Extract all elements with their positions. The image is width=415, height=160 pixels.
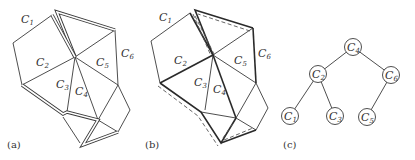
panel-b: C1 C2 C3 C4 C5 C6 (b): [145, 10, 271, 150]
panel-c: C4 C2 C6 C1 C3 C5 (c): [282, 39, 400, 151]
cell-label-c6: C6: [258, 47, 271, 61]
panel-label-c: (c): [283, 139, 297, 150]
path-solid: [221, 130, 256, 143]
edge: [213, 28, 253, 55]
outer-boundary-right: [253, 28, 256, 83]
edge: [63, 117, 80, 143]
cell-label-c5: C5: [234, 54, 247, 68]
edge: [98, 85, 118, 120]
cell-label-c6: C6: [121, 47, 134, 61]
tree-node-c4: C4: [345, 39, 362, 56]
cell-label-c1: C1: [21, 13, 34, 27]
panel-label-a: (a): [7, 139, 21, 150]
panel-a: C1 C2 C3 C4 C5 C6 (a): [7, 12, 134, 150]
path-solid: [195, 10, 253, 55]
tree-node-c3: C3: [327, 108, 344, 125]
edge: [201, 112, 236, 118]
figure-canvas: C1 C2 C3 C4 C5 C6 (a): [0, 0, 415, 160]
edge: [75, 30, 115, 57]
cell-label-c5: C5: [96, 56, 109, 70]
cell-label-c2: C2: [174, 54, 187, 68]
tree-node-c5: C5: [359, 109, 376, 126]
dashed-path: [158, 14, 253, 146]
tree-node-c6: C6: [383, 67, 400, 84]
cell-label-c3: C3: [56, 78, 69, 92]
outer-boundary-right: [256, 83, 268, 130]
cell-label-c3: C3: [194, 76, 207, 90]
cell-label-c1: C1: [159, 11, 172, 25]
tree-node-c2: C2: [310, 66, 327, 83]
edge: [236, 118, 256, 130]
double-line-separator: [22, 12, 118, 145]
edge: [98, 120, 118, 132]
outer-boundary-right: [115, 30, 130, 132]
cell-label-c2: C2: [36, 56, 49, 70]
edge: [236, 83, 256, 118]
panel-label-b: (b): [145, 139, 159, 150]
tree-node-c1: C1: [282, 108, 299, 125]
